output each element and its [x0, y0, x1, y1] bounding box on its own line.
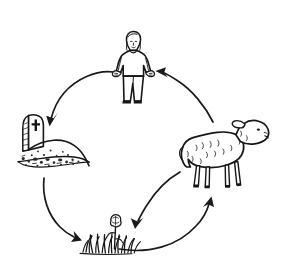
arrow-sheep-to-human: Person eats the sheep — [156, 67, 214, 122]
sheep-icon: Sheep facing right — [180, 121, 269, 189]
cycle-illustration: Person dies and is buried Person eats th… — [0, 0, 291, 269]
arrow-human-to-grave: Person dies and is buried — [46, 72, 113, 127]
cycle-diagram: Life cycle / cycle of matter hand-drawn … — [0, 0, 291, 269]
gravestone-icon: Gravestone with cross above a soil mound — [18, 115, 89, 167]
arrow-grave-to-grass: Remains decompose and nourish plants — [44, 178, 82, 242]
flower-grass-icon: Tuft of grass with a flower — [80, 215, 140, 255]
person-icon: Person standing with arms outstretched — [112, 31, 154, 103]
arrow-sheep-to-grass: Sheep droppings fertilise the plants — [131, 172, 180, 229]
